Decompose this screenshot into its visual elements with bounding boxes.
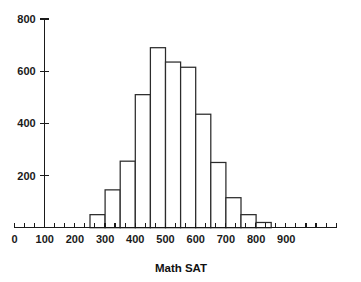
histogram-bar: [211, 162, 226, 227]
x-axis-tick-label: 200: [66, 233, 84, 245]
x-axis-tick-label: 400: [126, 233, 144, 245]
histogram-bar: [90, 215, 105, 228]
x-axis-tick-label: 900: [277, 233, 295, 245]
histogram-bar: [241, 215, 256, 228]
x-axis-tick-label: 0: [11, 233, 17, 245]
histogram-bar: [181, 67, 196, 227]
y-axis-tick-label: 600: [17, 65, 35, 77]
x-axis-tick-label: 100: [36, 233, 54, 245]
histogram-bar: [256, 222, 271, 227]
histogram-svg: 0100200300400500600700800900 20040060080…: [0, 0, 361, 282]
histogram-bar: [196, 114, 211, 227]
y-axis-tick-label: 800: [17, 13, 35, 25]
y-axis-tick-label: 200: [17, 170, 35, 182]
histogram-bar: [120, 161, 135, 228]
histogram-bar: [150, 48, 165, 228]
y-axis-tick-label: 400: [17, 117, 35, 129]
x-axis-tick-label: 500: [156, 233, 174, 245]
histogram-bar: [166, 62, 181, 228]
x-axis-tick-label: 700: [217, 233, 235, 245]
histogram-bar: [135, 95, 150, 228]
x-axis-title: Math SAT: [155, 262, 207, 274]
x-axis-tick-label: 800: [247, 233, 265, 245]
histogram-bar: [226, 198, 241, 228]
x-axis-tick-label: 600: [187, 233, 205, 245]
histogram-bar: [105, 190, 120, 228]
x-axis-tick-label: 300: [96, 233, 114, 245]
histogram-chart: 0100200300400500600700800900 20040060080…: [0, 0, 361, 282]
